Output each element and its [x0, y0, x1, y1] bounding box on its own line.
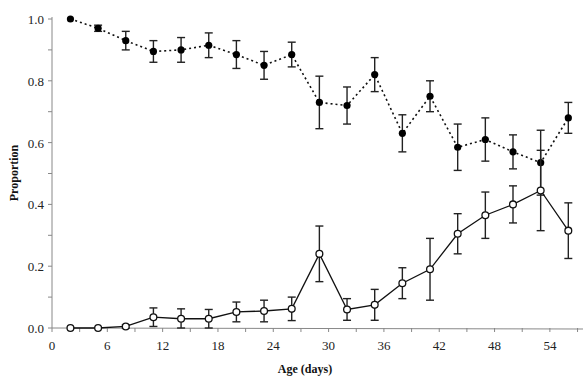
x-tick-label: 24	[267, 338, 281, 353]
data-point-filled	[233, 51, 240, 58]
x-tick-label: 0	[49, 338, 56, 353]
y-tick-label: 0.8	[28, 74, 44, 89]
x-tick-label: 42	[433, 338, 446, 353]
data-point-filled	[371, 71, 378, 78]
data-point-filled	[316, 99, 323, 106]
y-tick-label: 1.0	[28, 12, 44, 27]
data-point-open	[537, 187, 544, 194]
data-point-filled	[482, 136, 489, 143]
data-point-filled	[399, 130, 406, 137]
data-point-open	[510, 201, 517, 208]
x-tick-label: 18	[211, 338, 224, 353]
series-filled	[67, 15, 572, 195]
x-tick-label: 36	[377, 338, 391, 353]
x-tick-label: 6	[104, 338, 111, 353]
data-point-open	[261, 308, 268, 315]
y-tick-label: 0.2	[28, 259, 44, 274]
chart: 0.00.20.40.60.81.0 061218243036424854 Pr…	[0, 0, 588, 391]
data-point-filled	[565, 114, 572, 121]
x-tick-label: 30	[322, 338, 335, 353]
data-point-filled	[288, 51, 295, 58]
data-point-filled	[426, 93, 433, 100]
data-point-open	[178, 315, 185, 322]
y-axis: 0.00.20.40.60.81.0	[28, 12, 52, 336]
data-point-open	[150, 314, 157, 321]
y-tick-label: 0.0	[28, 321, 44, 336]
data-point-open	[288, 305, 295, 312]
data-point-open	[67, 325, 74, 332]
data-point-open	[399, 280, 406, 287]
x-tick-label: 54	[543, 338, 557, 353]
data-point-filled	[150, 48, 157, 55]
data-point-filled	[177, 46, 184, 53]
x-tick-label: 12	[156, 338, 169, 353]
x-tick-label: 48	[488, 338, 501, 353]
data-point-open	[233, 309, 240, 316]
data-point-open	[565, 227, 572, 234]
data-point-open	[482, 212, 489, 219]
data-point-filled	[95, 25, 102, 32]
y-tick-label: 0.6	[28, 136, 45, 151]
data-point-open	[122, 323, 129, 330]
data-point-filled	[260, 62, 267, 69]
data-point-filled	[67, 15, 74, 22]
data-point-filled	[343, 102, 350, 109]
data-point-open	[316, 250, 323, 257]
data-point-open	[205, 315, 212, 322]
data-point-filled	[509, 148, 516, 155]
data-point-filled	[454, 144, 461, 151]
data-point-open	[454, 230, 461, 237]
x-axis-title: Age (days)	[278, 362, 332, 376]
data-point-open	[344, 306, 351, 313]
data-point-open	[95, 325, 102, 332]
y-axis-title: Proportion	[7, 144, 21, 201]
x-axis-line	[52, 328, 583, 329]
x-axis: 061218243036424854	[49, 328, 583, 353]
data-point-filled	[122, 37, 129, 44]
series-open	[67, 150, 572, 331]
data-point-open	[427, 266, 434, 273]
data-point-filled	[205, 42, 212, 49]
data-point-open	[371, 301, 378, 308]
y-tick-label: 0.4	[28, 197, 45, 212]
